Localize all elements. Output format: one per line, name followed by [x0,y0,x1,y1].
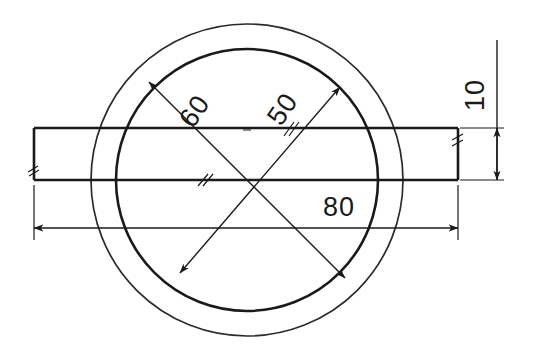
dimension-label-80: 80 [323,192,355,222]
dimension-label-60: 60 [173,89,216,132]
drawing-svg-root: 60 50 80 10 [0,0,535,347]
technical-drawing-canvas: 60 50 80 10 [0,0,535,347]
dimension-label-10: 10 [460,79,490,111]
dimension-10-group: 10 [460,40,504,180]
